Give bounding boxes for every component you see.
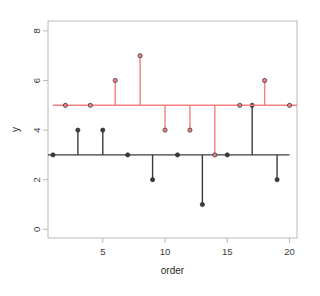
data-point	[126, 153, 130, 157]
data-point	[101, 128, 105, 132]
y-tick-label: 0	[32, 227, 43, 232]
stem-plot: 024685101520ordery	[0, 0, 320, 296]
data-point	[188, 128, 192, 132]
x-tick-label: 5	[100, 246, 105, 257]
data-point	[51, 153, 55, 157]
data-point	[213, 153, 217, 157]
data-point	[163, 128, 167, 132]
y-tick-label: 8	[32, 28, 43, 33]
y-tick-label: 4	[32, 127, 43, 132]
x-axis-title: order	[161, 265, 185, 276]
x-tick-label: 15	[222, 246, 233, 257]
x-tick-label: 10	[160, 246, 171, 257]
data-point	[238, 103, 242, 107]
data-point	[225, 153, 229, 157]
y-tick-label: 2	[32, 177, 43, 182]
y-tick-label: 6	[32, 78, 43, 83]
data-point	[88, 103, 92, 107]
chart-container: 024685101520ordery	[0, 0, 320, 296]
data-point	[263, 78, 267, 82]
data-point	[287, 103, 291, 107]
data-point	[275, 178, 279, 182]
x-tick-label: 20	[284, 246, 295, 257]
data-point	[76, 128, 80, 132]
plot-frame	[48, 21, 297, 238]
data-point	[138, 54, 142, 58]
data-point	[200, 202, 204, 206]
data-point	[175, 153, 179, 157]
data-point	[150, 178, 154, 182]
y-axis-title: y	[10, 127, 21, 132]
data-point	[113, 78, 117, 82]
data-point	[63, 103, 67, 107]
